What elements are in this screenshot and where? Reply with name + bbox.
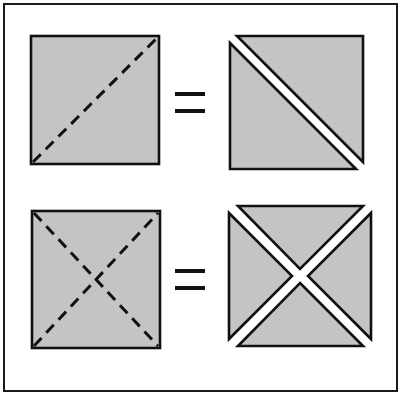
four-triangles-hit[interactable] <box>228 205 373 348</box>
two-triangles-hit[interactable] <box>229 35 365 171</box>
square-two-diagonals-hit[interactable] <box>32 211 162 350</box>
figure-root: Square dissection equivalences A square … <box>0 0 405 404</box>
square-one-diagonal-hit[interactable] <box>31 36 161 166</box>
equals-bottom-hit[interactable] <box>173 265 207 293</box>
equals-top-hit[interactable] <box>173 88 207 116</box>
